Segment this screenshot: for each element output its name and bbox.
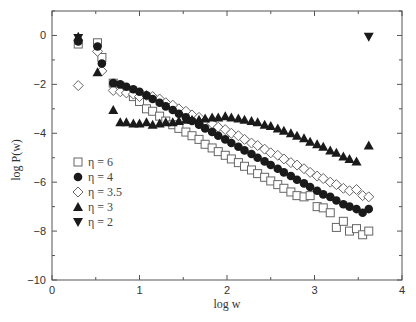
x-tick-label: 4 xyxy=(399,284,405,296)
data-point-filled-circle xyxy=(93,42,102,51)
legend-label: η = 3 xyxy=(88,200,113,214)
y-tick-label: −2 xyxy=(33,78,46,90)
x-tick-label: 1 xyxy=(136,284,142,296)
data-point-open-square xyxy=(306,192,314,200)
data-point-open-square xyxy=(339,217,347,225)
data-point-open-square xyxy=(74,158,82,166)
y-tick-label: −8 xyxy=(33,225,46,237)
x-tick-label: 2 xyxy=(224,284,230,296)
data-point-open-square xyxy=(326,209,334,217)
data-point-filled-circle xyxy=(74,173,83,182)
y-tick-label: −4 xyxy=(33,127,46,139)
y-tick-label: −6 xyxy=(33,176,46,188)
data-point-filled-circle xyxy=(98,59,107,68)
legend-label: η = 2 xyxy=(88,215,113,229)
data-point-filled-circle xyxy=(364,205,373,214)
y-tick-label: 0 xyxy=(40,29,46,41)
data-point-open-square xyxy=(365,227,373,235)
y-axis-title: log P(w) xyxy=(9,139,23,181)
x-tick-label: 3 xyxy=(311,284,317,296)
x-tick-label: 0 xyxy=(49,284,55,296)
legend-label: η = 4 xyxy=(88,170,113,184)
legend-label: η = 6 xyxy=(88,155,113,169)
background xyxy=(0,0,416,322)
x-axis-title: log w xyxy=(214,297,241,311)
y-tick-label: −10 xyxy=(27,274,46,286)
legend-label: η = 3.5 xyxy=(88,185,122,199)
chart: 012340−2−4−6−8−10 η = 6η = 4η = 3.5η = 3… xyxy=(0,0,416,322)
